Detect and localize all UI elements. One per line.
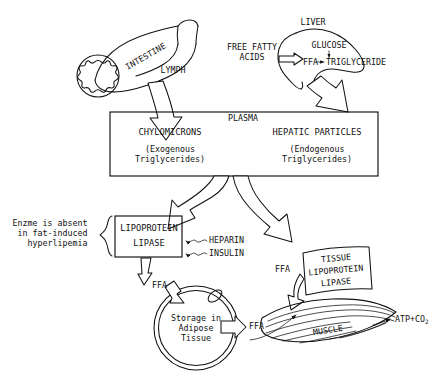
ffa-out-of-adipose-arrow (221, 316, 246, 338)
ffa-from-adipose-label: FFA (249, 322, 264, 332)
muscle-shape (261, 299, 396, 343)
lipoprotein-lipase-line1: LIPOPROTEIN (120, 223, 178, 233)
hepatic-particles-block-arrow (307, 76, 348, 112)
heparin-label: HEPARIN (209, 236, 244, 246)
glucose-label: GLUCOSE (312, 41, 347, 51)
hepatic-particles-subtitle: (Endogenous Triglycerides) (282, 145, 352, 165)
liver-ffa-label: FFA (303, 58, 318, 68)
co2-subscript: 2 (425, 318, 429, 325)
annotation-curly-brace (100, 216, 112, 256)
adipose-label: Storage in Adipose Tissue (171, 314, 221, 343)
ffa-from-lipase-label: FFA (152, 281, 167, 291)
liver-label: LIVER (301, 18, 326, 28)
muscle-output-label: ATP+CO2 (395, 315, 429, 325)
atp-text: ATP (395, 314, 410, 324)
chylomicrons-label: CHYLOMICRONS (139, 127, 202, 137)
tissue-lipase-hook-arrow (288, 274, 304, 310)
hepatic-particles-label: HEPATIC PARTICLES (273, 127, 362, 137)
co2-text: CO (415, 314, 425, 324)
triglyceride-label: TRIGLYCERIDE (326, 58, 386, 68)
ffa-inflow-arrow (279, 53, 303, 65)
heparin-wavy-arrow (186, 240, 207, 242)
plasma-title: PLASMA (228, 114, 258, 124)
lymph-label: LYMPH (161, 66, 186, 76)
insulin-label: INSULIN (209, 249, 244, 259)
ffa-to-muscle-label: FFA (275, 265, 290, 275)
ffa-into-adipose-arrow (165, 281, 184, 303)
enzyme-annotation-text: Enzme is absent in fat-induced hyperlipe… (13, 219, 88, 248)
chylomicrons-subtitle: (Exogenous Triglycerides) (135, 145, 205, 165)
diagram-canvas: .s{fill:none;stroke:#111111;stroke-width… (0, 0, 433, 378)
lipase-ffa-block-arrow (138, 258, 152, 285)
lipoprotein-lipase-line2: LIPASE (133, 238, 164, 248)
plasma-outflow-forked-arrow (168, 176, 292, 242)
insulin-wavy-arrow (186, 253, 207, 255)
free-fatty-acids-label: FREE FATTY ACIDS (227, 43, 277, 63)
